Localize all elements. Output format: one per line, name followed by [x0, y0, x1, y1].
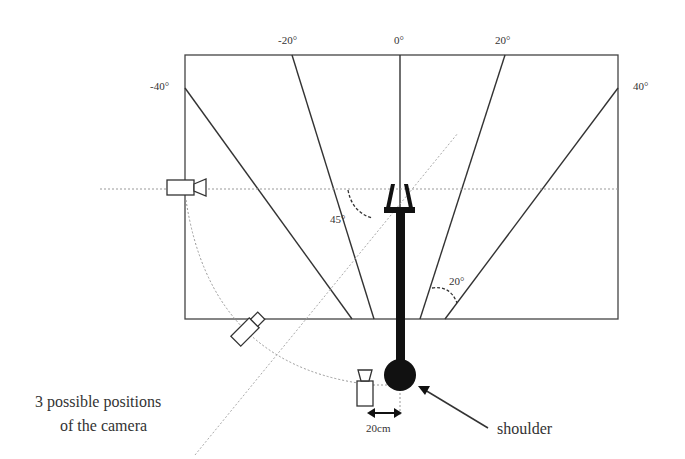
gripper-finger-left: [386, 184, 395, 208]
shoulder-label: shoulder: [497, 420, 553, 437]
robot-arm: [384, 184, 416, 391]
shoulder-joint: [384, 359, 416, 391]
diagonal-camera-axis: [195, 133, 458, 455]
angle-arc-45: [348, 190, 372, 218]
camera-left: [167, 179, 206, 196]
gripper-finger-right: [404, 184, 413, 208]
label-plus40: 40°: [633, 80, 648, 92]
label-minus20: -20°: [278, 34, 297, 46]
camera-bottom: [357, 370, 373, 406]
ray-minus20deg: [292, 55, 374, 319]
label-minus40: -40°: [150, 80, 169, 92]
angle-arc-20: [432, 288, 457, 303]
label-20deg: 20°: [449, 275, 464, 287]
distance-label: 20cm: [366, 422, 391, 434]
camera-diagonal: [231, 311, 266, 346]
caption-camera-line2: of the camera: [60, 417, 147, 434]
label-zero: 0°: [394, 34, 404, 46]
distance-arrow: [367, 408, 402, 418]
arm-camera-diagram: -20° 0° 20° -40° 40° 45° 20° 3 possible …: [0, 0, 685, 459]
ray-minus40deg: [185, 88, 352, 319]
arm-link: [396, 210, 405, 370]
caption-camera-line1: 3 possible positions: [35, 393, 161, 411]
label-plus20: 20°: [495, 34, 510, 46]
label-45deg: 45°: [330, 213, 345, 225]
ray-plus40deg: [445, 88, 618, 319]
shoulder-pointer-arrow: [418, 386, 488, 428]
